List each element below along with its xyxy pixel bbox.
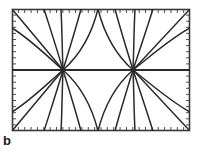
phase-portrait-plot [0,0,199,151]
node-right-node [131,68,135,72]
figure-panel: b [0,0,199,151]
panel-label-b: b [3,133,11,148]
node-left-node [61,68,65,72]
plot-background [0,0,199,151]
